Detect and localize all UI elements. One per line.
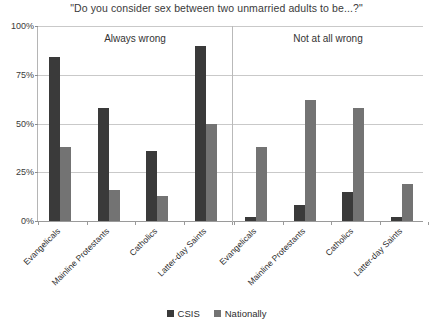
bar <box>245 217 256 221</box>
bar <box>195 46 206 222</box>
y-axis-tick-label: 75% <box>2 70 34 80</box>
x-axis-tick-mark <box>380 222 381 225</box>
bar <box>402 184 413 221</box>
x-axis-label: Catholics <box>127 226 159 258</box>
x-axis-label: Catholics <box>323 226 355 258</box>
x-axis-tick-mark <box>331 222 332 225</box>
bar <box>391 217 402 221</box>
legend-swatch-icon <box>214 310 221 317</box>
legend-item[interactable]: Nationally <box>214 308 267 319</box>
legend-label: Nationally <box>225 308 267 319</box>
x-axis-tick-mark <box>38 222 39 225</box>
y-axis-tick-mark <box>35 75 38 76</box>
x-axis-tick-mark <box>283 222 284 225</box>
y-axis-tick-label: 25% <box>2 167 34 177</box>
bar <box>146 151 157 221</box>
legend-swatch-icon <box>167 310 174 317</box>
legend-item[interactable]: CSIS <box>167 308 200 319</box>
x-axis-tick-mark <box>184 222 185 225</box>
bar <box>206 124 217 222</box>
x-axis-tick-mark <box>135 222 136 225</box>
bar <box>294 205 305 221</box>
bars-layer <box>38 26 423 221</box>
chart-legend: CSISNationally <box>0 308 433 319</box>
x-axis-label: Latter-day Saints <box>155 226 208 279</box>
y-axis-tick-label: 100% <box>2 21 34 31</box>
y-axis-tick-label: 50% <box>2 119 34 129</box>
bar <box>157 196 168 221</box>
chart-title: "Do you consider sex between two unmarri… <box>0 2 433 14</box>
legend-label: CSIS <box>178 308 200 319</box>
bar <box>60 147 71 221</box>
bar <box>98 108 109 221</box>
bar <box>305 100 316 221</box>
y-axis-tick-mark <box>35 172 38 173</box>
y-axis: 0%25%50%75%100% <box>0 26 34 222</box>
y-axis-tick-mark <box>35 124 38 125</box>
chart-container: "Do you consider sex between two unmarri… <box>0 0 433 333</box>
x-axis-tick-mark <box>234 222 235 225</box>
x-axis-tick-mark <box>428 222 429 225</box>
bar <box>109 190 120 221</box>
x-axis-label: Latter-day Saints <box>351 226 404 279</box>
y-axis-tick-mark <box>35 26 38 27</box>
bar <box>256 147 267 221</box>
x-axis-label: Evangelicals <box>21 226 62 267</box>
bar <box>353 108 364 221</box>
x-axis-label: Evangelicals <box>217 226 258 267</box>
x-axis: EvangelicalsMainline ProtestantsCatholic… <box>0 222 433 304</box>
bar <box>49 57 60 221</box>
bar <box>342 192 353 221</box>
x-axis-tick-mark <box>87 222 88 225</box>
x-axis-tick-mark <box>232 222 233 225</box>
y-axis-tick-mark <box>35 221 38 222</box>
